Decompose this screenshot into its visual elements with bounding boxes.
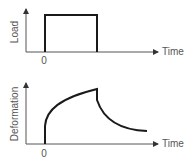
load-chart: Load Time 0: [9, 9, 184, 66]
deformation-y-label: Deformation: [9, 87, 20, 141]
diagram: Load Time 0 Deformation Time 0: [0, 0, 194, 164]
deformation-origin-label: 0: [41, 148, 47, 159]
deformation-curve: [45, 89, 147, 144]
deformation-x-label: Time: [162, 138, 184, 149]
deformation-chart: Deformation Time 0: [9, 83, 184, 159]
load-x-label: Time: [162, 46, 184, 57]
load-pulse-curve: [45, 15, 97, 52]
load-origin-label: 0: [41, 55, 47, 66]
load-y-label: Load: [9, 21, 20, 43]
